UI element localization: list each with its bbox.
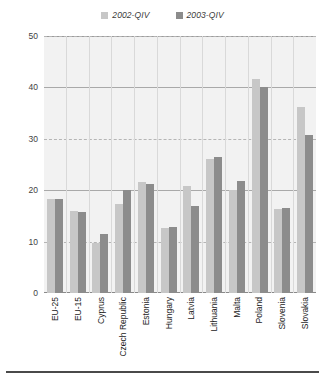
x-label-cell: Slovakia xyxy=(293,297,316,365)
bar-group xyxy=(157,36,180,293)
bar-estonia-2003-QIV xyxy=(146,184,154,293)
bar-czech-republic-2003-QIV xyxy=(123,190,131,293)
x-label-cell: EU-25 xyxy=(44,297,67,365)
bar-group xyxy=(66,36,89,293)
legend-entry-2003: 2003-QIV xyxy=(176,10,224,20)
bar-slovenia-2002-QIV xyxy=(274,209,282,293)
x-axis-label-poland: Poland xyxy=(254,297,264,323)
x-axis-label-eu-25: EU-25 xyxy=(50,297,60,321)
bar-group xyxy=(44,36,66,293)
x-axis-label-latvia: Latvia xyxy=(186,297,196,320)
bar-lithuania-2003-QIV xyxy=(214,157,222,293)
x-label-cell: Hungary xyxy=(157,297,180,365)
x-label-cell: Estonia xyxy=(135,297,158,365)
bar-group xyxy=(180,36,203,293)
bar-latvia-2002-QIV xyxy=(183,186,191,293)
x-label-cell: EU-15 xyxy=(67,297,90,365)
y-tick-label-50: 50 xyxy=(29,31,38,41)
x-axis-label-eu-15: EU-15 xyxy=(73,297,83,321)
x-axis-label-hungary: Hungary xyxy=(164,297,174,329)
bar-hungary-2003-QIV xyxy=(169,227,177,293)
x-label-cell: Lithuania xyxy=(203,297,226,365)
bar-cyprus-2002-QIV xyxy=(92,243,100,293)
bar-malta-2003-QIV xyxy=(237,181,245,293)
x-label-cell: Slovenia xyxy=(271,297,294,365)
bar-eu-25-2003-QIV xyxy=(55,199,63,293)
chart-legend: 2002-QIV 2003-QIV xyxy=(0,10,325,20)
y-tick-label-40: 40 xyxy=(29,82,38,92)
legend-label-2003: 2003-QIV xyxy=(187,10,224,20)
x-label-cell: Latvia xyxy=(180,297,203,365)
x-axis-label-estonia: Estonia xyxy=(141,297,151,325)
y-tick-label-0: 0 xyxy=(33,288,38,298)
bar-poland-2002-QIV xyxy=(252,79,260,293)
chart-figure: 2002-QIV 2003-QIV 01020304050 EU-25EU-15… xyxy=(0,0,325,382)
bar-slovakia-2003-QIV xyxy=(305,135,313,293)
bar-group xyxy=(248,36,271,293)
legend-label-2002: 2002-QIV xyxy=(112,10,149,20)
bar-group xyxy=(271,36,294,293)
x-axis-label-slovakia: Slovakia xyxy=(300,297,310,329)
bar-cyprus-2003-QIV xyxy=(100,234,108,293)
legend-entry-2002: 2002-QIV xyxy=(101,10,149,20)
y-axis-ticks: 01020304050 xyxy=(0,36,44,294)
y-tick-label-20: 20 xyxy=(29,185,38,195)
bar-group xyxy=(134,36,157,293)
bar-eu-25-2002-QIV xyxy=(47,199,55,293)
x-label-cell: Czech Republic xyxy=(112,297,135,365)
bar-eu-15-2003-QIV xyxy=(78,212,86,293)
bar-group xyxy=(89,36,112,293)
bar-group xyxy=(293,36,316,293)
bar-slovakia-2002-QIV xyxy=(297,107,305,293)
x-axis-label-lithuania: Lithuania xyxy=(209,297,219,332)
bars-layer xyxy=(44,36,316,293)
bottom-rule-divider xyxy=(6,371,319,373)
legend-swatch-icon-2003 xyxy=(176,12,183,19)
x-axis-label-slovenia: Slovenia xyxy=(277,297,287,330)
bar-lithuania-2002-QIV xyxy=(206,159,214,293)
bar-slovenia-2003-QIV xyxy=(282,208,290,293)
x-axis-labels: EU-25EU-15CyprusCzech RepublicEstoniaHun… xyxy=(44,297,316,365)
x-axis-label-malta: Malta xyxy=(232,297,242,318)
x-label-cell: Malta xyxy=(225,297,248,365)
bar-hungary-2002-QIV xyxy=(161,228,169,293)
legend-swatch-icon-2002 xyxy=(101,12,108,19)
x-label-cell: Poland xyxy=(248,297,271,365)
bar-group xyxy=(202,36,225,293)
x-axis-label-czech-republic: Czech Republic xyxy=(118,297,128,357)
bar-group xyxy=(111,36,134,293)
x-label-cell: Cyprus xyxy=(89,297,112,365)
bar-eu-15-2002-QIV xyxy=(70,211,78,293)
bar-latvia-2003-QIV xyxy=(191,206,199,293)
y-tick-label-30: 30 xyxy=(29,134,38,144)
y-tick-label-10: 10 xyxy=(29,237,38,247)
bar-estonia-2002-QIV xyxy=(138,182,146,293)
bar-czech-republic-2002-QIV xyxy=(115,204,123,293)
bar-malta-2002-QIV xyxy=(229,190,237,293)
bar-group xyxy=(225,36,248,293)
bar-poland-2003-QIV xyxy=(260,87,268,293)
x-axis-label-cyprus: Cyprus xyxy=(96,297,106,324)
